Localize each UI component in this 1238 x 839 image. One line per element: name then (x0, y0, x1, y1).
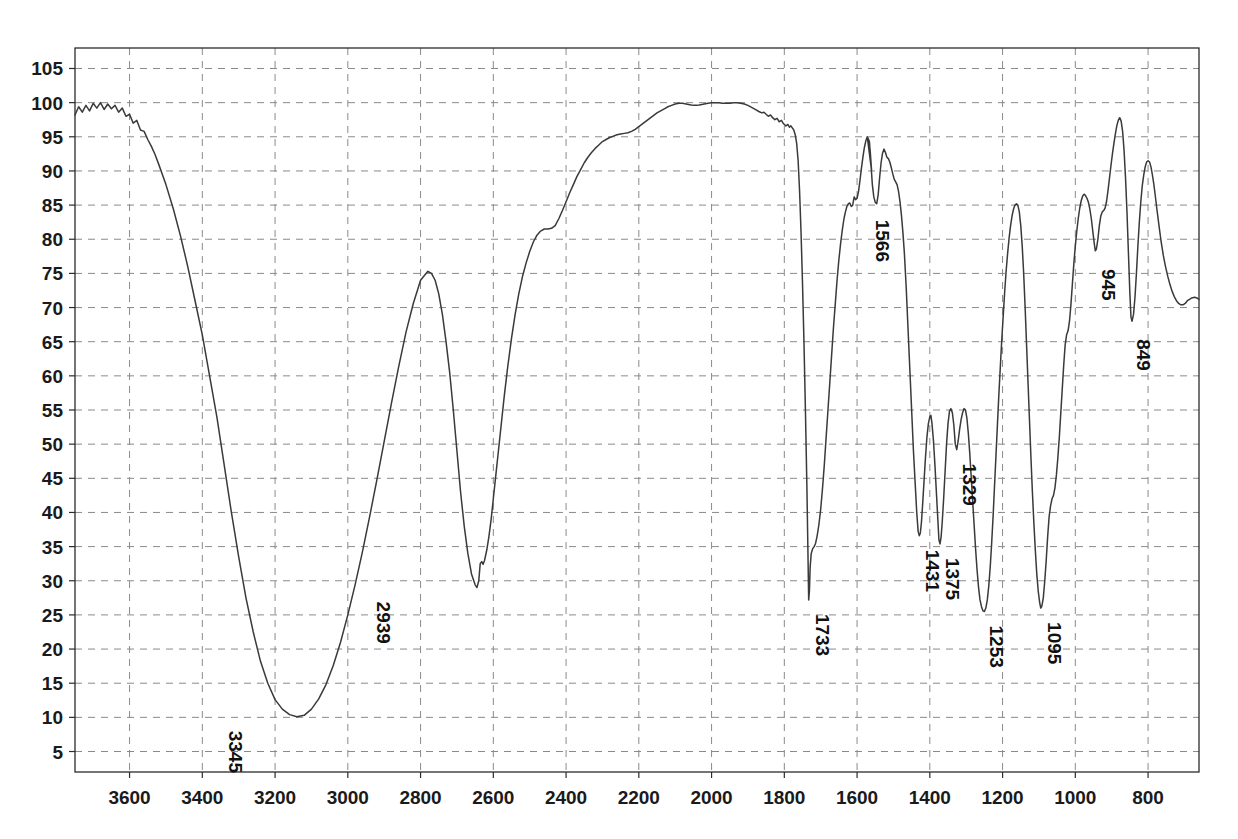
y-axis-tick-label: 80 (42, 229, 63, 250)
peak-label: 1095 (1044, 622, 1065, 665)
x-axis-tick-label: 2400 (545, 787, 587, 808)
y-axis-tick-label: 75 (42, 263, 64, 284)
y-axis-tick-label: 50 (42, 434, 63, 455)
y-axis-tick-label: 85 (42, 195, 64, 216)
ir-spectrum-chart: 5101520253035404550556065707580859095100… (0, 0, 1238, 839)
x-axis-tick-label: 800 (1132, 787, 1164, 808)
x-axis-tick-label: 2200 (618, 787, 660, 808)
peak-label: 3345 (225, 731, 246, 774)
peak-label: 2939 (373, 602, 394, 644)
peak-label: 945 (1098, 269, 1119, 301)
y-axis-tick-label: 40 (42, 502, 63, 523)
y-axis-tick-label: 5 (52, 742, 63, 763)
peak-label: 849 (1133, 339, 1154, 371)
y-axis-tick-label: 20 (42, 639, 63, 660)
x-axis-tick-label: 3200 (254, 787, 296, 808)
y-axis-tick-label: 35 (42, 537, 64, 558)
y-axis-tick-label: 60 (42, 366, 63, 387)
y-axis-tick-label: 45 (42, 468, 64, 489)
x-axis-tick-label: 1600 (836, 787, 878, 808)
y-axis-tick-label: 25 (42, 605, 64, 626)
y-axis-tick-label: 100 (31, 93, 63, 114)
peak-label: 1566 (872, 220, 893, 262)
peak-label: 1329 (959, 464, 980, 506)
peak-label: 1431 (922, 550, 943, 593)
y-axis-tick-label: 90 (42, 161, 63, 182)
y-axis-tick-label: 15 (42, 673, 64, 694)
chart-background (0, 0, 1238, 839)
peak-label: 1375 (942, 558, 963, 601)
x-axis-tick-label: 1400 (909, 787, 951, 808)
y-axis-tick-label: 30 (42, 571, 63, 592)
y-axis-tick-label: 70 (42, 298, 63, 319)
x-axis-tick-label: 1200 (981, 787, 1023, 808)
spectrum-plot-svg: 5101520253035404550556065707580859095100… (0, 0, 1238, 839)
x-axis-tick-label: 1800 (763, 787, 805, 808)
x-axis-tick-label: 2000 (690, 787, 732, 808)
y-axis-tick-label: 65 (42, 332, 64, 353)
peak-label: 1733 (812, 614, 833, 656)
x-axis-tick-label: 1000 (1054, 787, 1096, 808)
y-axis-tick-label: 105 (31, 58, 63, 79)
x-axis-tick-label: 2600 (472, 787, 514, 808)
x-axis-tick-label: 3000 (327, 787, 369, 808)
y-axis-tick-label: 95 (42, 127, 64, 148)
x-axis-tick-label: 3400 (181, 787, 223, 808)
peak-label: 1253 (986, 626, 1007, 668)
y-axis-tick-label: 10 (42, 707, 63, 728)
y-axis-tick-label: 55 (42, 400, 64, 421)
x-axis-tick-label: 2800 (399, 787, 441, 808)
x-axis-tick-label: 3600 (108, 787, 150, 808)
